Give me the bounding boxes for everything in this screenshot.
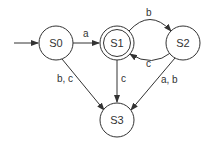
state-s0: S0 xyxy=(39,26,73,60)
svg-text:b, c: b, c xyxy=(57,73,73,84)
svg-text:S1: S1 xyxy=(110,37,123,49)
transition-s1-s2: b xyxy=(129,7,171,31)
transition-s2-s1: c xyxy=(130,52,172,69)
transition-s0-s1: a xyxy=(73,28,99,43)
svg-text:S2: S2 xyxy=(176,37,189,49)
fsa-diagram: a b c b, c c a, b S0 S1 S2 S3 xyxy=(0,0,207,142)
state-s1-accepting: S1 xyxy=(100,26,134,60)
state-s3: S3 xyxy=(100,103,134,137)
svg-text:b: b xyxy=(146,7,152,18)
svg-text:a: a xyxy=(83,28,89,39)
svg-text:c: c xyxy=(146,58,151,69)
svg-text:S3: S3 xyxy=(110,114,123,126)
transition-s1-s3: c xyxy=(117,60,126,102)
svg-text:a, b: a, b xyxy=(161,74,178,85)
svg-text:S0: S0 xyxy=(49,37,62,49)
transition-s0-s3: b, c xyxy=(57,59,104,110)
svg-text:c: c xyxy=(121,73,126,84)
state-s2: S2 xyxy=(166,26,200,60)
transition-s2-s3: a, b xyxy=(131,58,178,110)
